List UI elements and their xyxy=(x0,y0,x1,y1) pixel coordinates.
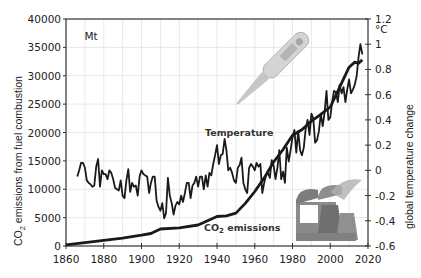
x-tick-label: 1860 xyxy=(53,253,80,265)
y2-tick-label: 0.2 xyxy=(375,139,392,151)
x-tick-label: 1960 xyxy=(241,253,268,265)
y2-tick-label: 0.8 xyxy=(375,63,392,75)
y2-tick-label: 0.6 xyxy=(375,89,392,101)
co2-emissions-label: CO2 emissions xyxy=(204,222,281,235)
left-axis-title: CO2 emissions from fuel combustion xyxy=(12,76,27,246)
y-tick-label: 40000 xyxy=(28,13,61,25)
right-axis-unit: °C xyxy=(375,23,388,35)
y-tick-label: 10000 xyxy=(28,183,61,195)
y2-tick-label: 0 xyxy=(375,164,382,176)
y-axis-right-ticks: -0.6-0.4-0.200.20.40.60.811.2 xyxy=(365,13,396,252)
y-axis-left-ticks: 0500010000150002000025000300003500040000 xyxy=(28,13,66,252)
y-tick-label: 30000 xyxy=(28,70,61,82)
right-axis-title: global temperature change xyxy=(403,104,415,229)
thermometer-icon xyxy=(231,29,312,110)
y2-tick-label: 0.4 xyxy=(375,114,392,126)
factory-icon xyxy=(296,179,362,241)
y2-tick-label: -0.4 xyxy=(375,215,396,227)
y2-tick-label: -0.6 xyxy=(375,240,396,252)
y2-tick-label: 1 xyxy=(375,38,382,50)
y-tick-label: 25000 xyxy=(28,98,61,110)
y-tick-label: 15000 xyxy=(28,155,61,167)
left-axis-unit: Mt xyxy=(84,30,97,42)
x-tick-label: 1940 xyxy=(204,253,231,265)
x-tick-label: 1900 xyxy=(128,253,155,265)
x-tick-label: 1920 xyxy=(166,253,193,265)
y2-tick-label: -0.2 xyxy=(375,190,396,202)
x-tick-label: 2020 xyxy=(355,253,382,265)
x-tick-label: 1980 xyxy=(279,253,306,265)
temperature-label: Temperature xyxy=(205,127,273,138)
y-tick-label: 20000 xyxy=(28,127,61,139)
y-tick-label: 5000 xyxy=(34,212,61,224)
chart: 186018801900192019401960198020002020 050… xyxy=(0,0,421,278)
x-tick-label: 1880 xyxy=(90,253,117,265)
y-tick-label: 0 xyxy=(54,240,61,252)
y-tick-label: 35000 xyxy=(28,41,61,53)
x-tick-label: 2000 xyxy=(317,253,344,265)
